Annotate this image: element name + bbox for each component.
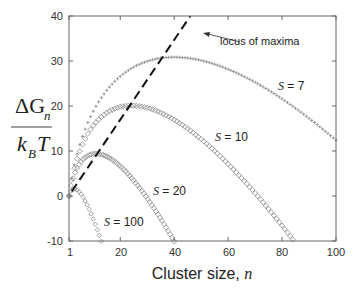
y-tick-20: 20	[51, 100, 63, 112]
locus-label: locus of maxima	[220, 35, 300, 47]
x-tick-20: 20	[115, 246, 127, 258]
label-s20: S = 20	[153, 184, 186, 198]
x-tick-80: 80	[276, 246, 288, 258]
x-tick-60: 60	[223, 246, 235, 258]
x-axis-title: Cluster size, n	[152, 265, 252, 282]
label-s10: S = 10	[215, 130, 248, 144]
svg-text:n: n	[44, 108, 51, 123]
y-tick-10: 10	[51, 145, 63, 157]
arrow-head-icon	[203, 32, 210, 37]
series-s7	[67, 56, 337, 198]
svg-text:k: k	[17, 131, 28, 156]
locus-of-maxima-line	[72, 16, 191, 192]
x-tick-100: 100	[327, 246, 345, 258]
x-tick-40: 40	[169, 246, 181, 258]
svg-text:B: B	[28, 146, 36, 161]
svg-text:ΔG: ΔG	[15, 93, 45, 118]
svg-text:T: T	[37, 131, 51, 156]
locus-annotation: locus of maxima	[203, 32, 300, 47]
plot-frame	[69, 16, 336, 241]
y-tick-minus10: -10	[47, 235, 63, 247]
y-axis-title: ΔG n k B T	[11, 93, 52, 161]
axis-ticks	[69, 16, 336, 241]
y-tick-40: 40	[51, 10, 63, 22]
nucleation-free-energy-chart: 40 30 20 10 0 -10 1 20 40 60 80 100 Clus…	[0, 0, 356, 289]
series-s10	[66, 103, 295, 242]
y-tick-30: 30	[51, 55, 63, 67]
x-tick-1: 1	[67, 246, 73, 258]
label-s7: S = 7	[278, 79, 305, 93]
label-s100: S = 100	[104, 215, 144, 229]
y-tick-0: 0	[57, 190, 63, 202]
series-s100	[67, 187, 104, 244]
